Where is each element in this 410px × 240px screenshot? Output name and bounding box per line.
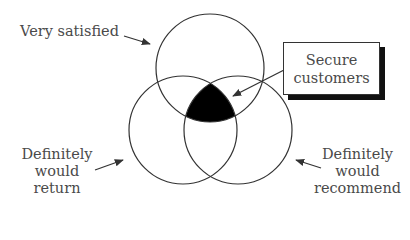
label-definitely-would-recommend: Definitely would recommend [310, 146, 405, 197]
callout-line: customers [293, 69, 369, 87]
label-line: Definitely [310, 146, 405, 163]
arrow-very-satisfied [124, 36, 150, 44]
label-line: return [12, 180, 102, 197]
circle-would-recommend [184, 76, 292, 184]
label-definitely-would-return: Definitely would return [12, 146, 102, 197]
label-line: would [12, 163, 102, 180]
label-line: Definitely [12, 146, 102, 163]
circle-would-return [129, 76, 237, 184]
label-line: recommend [310, 180, 405, 197]
label-line: would [310, 163, 405, 180]
callout-line: Secure [306, 51, 358, 69]
callout-secure-customers: Secure customers [283, 42, 380, 95]
label-very-satisfied: Very satisfied [20, 23, 119, 40]
